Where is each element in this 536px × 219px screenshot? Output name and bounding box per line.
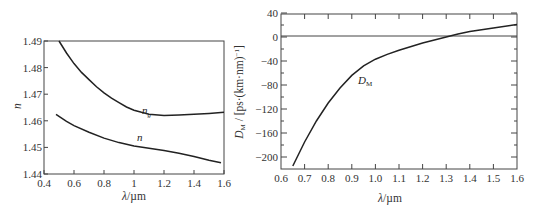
x-tick-label: 0.8 [97,177,111,189]
figure-canvas: 0.40.60.811.21.41.6 1.441.451.461.471.48… [0,0,536,219]
x-tick-label: 1.0 [369,172,383,184]
x-tick-label: 1.5 [487,172,501,184]
right-y-axis-title: DM / [ps·(km·nm)−1] [233,45,247,140]
y-tick-label: −120 [255,103,278,115]
x-tick-label: 1.1 [392,172,406,184]
y-tick-label: −200 [255,151,278,163]
material-dispersion-curve [293,24,517,166]
x-tick-label: 1.2 [416,172,430,184]
y-tick-label: 0 [273,31,279,43]
x-tick-label: 1.6 [510,172,524,184]
material-dispersion-chart: 0.60.70.80.91.01.11.21.31.41.51.6 400−40… [233,7,524,205]
x-tick-label: 0.7 [298,172,312,184]
y-tick-label: 1.47 [23,88,43,100]
x-tick-label: 1.2 [157,177,171,189]
left-x-ticks: 0.40.60.811.21.41.6 [37,170,231,189]
left-x-axis-title: λ/µm [121,190,146,203]
y-tick-label: 40 [267,7,279,19]
material-dispersion-curve-label: DM [357,74,373,88]
right-x-ticks: 0.60.70.80.91.01.11.21.31.41.51.6 [274,14,524,184]
x-tick-label: 1.4 [463,172,477,184]
y-tick-label: 1.44 [23,168,43,180]
y-tick-label: 1.46 [23,115,43,127]
x-tick-label: 1 [131,177,137,189]
right-plot-frame [281,14,517,169]
y-tick-label: −80 [261,79,279,91]
x-tick-label: 1.3 [439,172,453,184]
y-tick-label: 1.49 [23,35,43,47]
x-tick-label: 0.8 [321,172,335,184]
left-y-axis-title: n [11,103,23,109]
right-x-axis-title: λ/µm [377,192,402,205]
refractive-index-curve-label: n [137,131,143,143]
y-tick-label: 1.48 [23,62,43,74]
group-index-curve-label: ng [142,104,152,119]
y-tick-label: −160 [255,127,278,139]
left-plot-frame [44,41,224,174]
y-tick-label: 1.45 [23,141,43,153]
x-tick-label: 1.6 [217,177,231,189]
x-tick-label: 0.9 [345,172,359,184]
x-tick-label: 1.4 [187,177,201,189]
x-tick-label: 0.6 [274,172,288,184]
x-tick-label: 0.6 [67,177,81,189]
refractive-index-chart: 0.40.60.811.21.41.6 1.441.451.461.471.48… [11,35,231,203]
y-tick-label: −40 [261,55,279,67]
